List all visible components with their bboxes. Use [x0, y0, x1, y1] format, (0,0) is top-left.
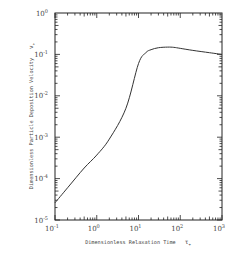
y-axis-title-text: Dimensionless Particle Deposition Veloci…: [28, 58, 35, 189]
y-tick-label: 100: [36, 8, 48, 18]
y-axis-title: Dimensionless Particle Deposition Veloci…: [27, 42, 36, 189]
x-tick-label: 103: [213, 223, 225, 233]
y-tick-label: 10-5: [34, 215, 48, 225]
plot-frame: [55, 13, 222, 220]
y-tick-labels: 10010-110-210-310-410-5: [34, 8, 48, 225]
y-axis-symbol-sub: +: [31, 42, 36, 45]
x-axis-symbol-sub: +: [188, 242, 191, 247]
y-tick-label: 10-3: [34, 132, 48, 142]
x-axis-title: Dimensionless Relaxation Time τ+: [85, 238, 191, 247]
chart: 10-1100101102103 10010-110-210-310-410-5…: [0, 0, 232, 255]
x-tick-labels: 10-1100101102103: [45, 223, 225, 233]
data-line: [55, 47, 222, 203]
axis-ticks: [55, 13, 222, 220]
x-axis-title-text: Dimensionless Relaxation Time: [85, 239, 176, 245]
y-tick-label: 10-2: [34, 90, 48, 100]
y-tick-label: 10-1: [34, 49, 48, 59]
y-tick-label: 10-4: [34, 173, 48, 183]
x-tick-label: 101: [129, 223, 141, 233]
x-tick-label: 102: [171, 223, 183, 233]
x-tick-label: 10-1: [45, 223, 59, 233]
x-tick-label: 100: [88, 223, 100, 233]
